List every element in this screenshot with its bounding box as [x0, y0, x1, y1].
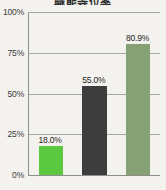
y-axis-tick-label: 25% [8, 129, 24, 139]
chart-title: 職能等位率 [0, 0, 166, 5]
bar-value-label: 80.9% [126, 33, 149, 43]
bar-value-label: 18.0% [39, 135, 62, 145]
bar[interactable] [126, 44, 150, 175]
plot-area: 0%25%50%75%100% 18.0%55.0%80.9% [28, 13, 160, 176]
bar-slot: 80.9% [126, 13, 150, 175]
bar-series: 18.0%55.0%80.9% [29, 13, 160, 175]
bar-wrapper: 18.0% [39, 146, 63, 175]
bar-value-label: 55.0% [82, 75, 105, 85]
bar-chart: 職能等位率 0%25%50%75%100% 18.0%55.0%80.9% [0, 0, 166, 190]
bar-slot: 55.0% [82, 13, 106, 175]
y-axis-tick-label: 50% [8, 89, 24, 99]
bar[interactable] [82, 86, 106, 175]
y-axis-tick-label: 0% [12, 170, 24, 180]
bar-slot: 18.0% [39, 13, 63, 175]
y-axis-tick-label: 75% [8, 48, 24, 58]
bar-wrapper: 80.9% [126, 44, 150, 175]
x-axis-line [28, 175, 160, 176]
bar[interactable] [39, 146, 63, 175]
y-axis-tick-label: 100% [3, 7, 24, 17]
bar-wrapper: 55.0% [82, 86, 106, 175]
